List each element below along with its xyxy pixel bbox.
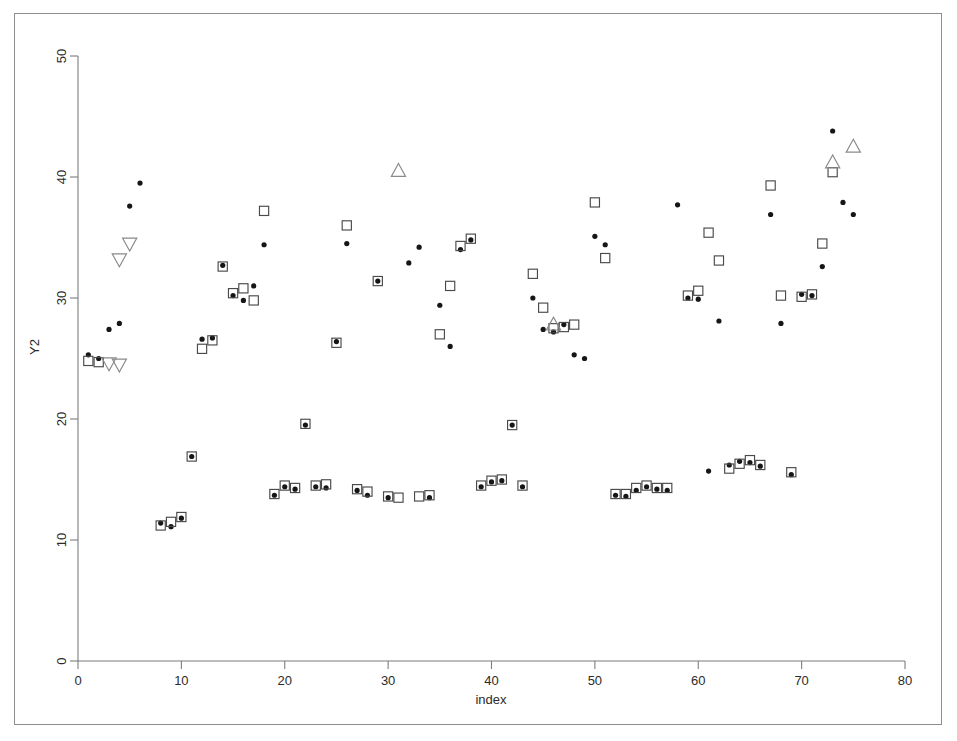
marker-square bbox=[694, 286, 703, 295]
marker-dot bbox=[479, 484, 484, 489]
data-markers bbox=[84, 128, 861, 530]
marker-dot bbox=[489, 479, 494, 484]
x-tick-label: 80 bbox=[898, 673, 912, 688]
marker-dot bbox=[127, 203, 132, 208]
marker-square bbox=[818, 239, 827, 248]
marker-square bbox=[601, 253, 610, 262]
marker-dot bbox=[840, 200, 845, 205]
x-tick-label: 60 bbox=[691, 673, 705, 688]
marker-square bbox=[342, 221, 351, 230]
chart-page: 01020304050 01020304050607080 Y2 index bbox=[0, 0, 957, 741]
marker-dot bbox=[830, 128, 835, 133]
marker-dot bbox=[468, 237, 473, 242]
marker-dot bbox=[272, 493, 277, 498]
x-tick-group: 01020304050607080 bbox=[74, 661, 912, 688]
x-axis-title: index bbox=[475, 692, 507, 707]
marker-square bbox=[590, 198, 599, 207]
marker-dot bbox=[458, 247, 463, 252]
marker-square bbox=[239, 284, 248, 293]
figure-frame: 01020304050 01020304050607080 Y2 index bbox=[14, 13, 942, 725]
marker-dot bbox=[809, 293, 814, 298]
marker-dot bbox=[365, 493, 370, 498]
y-axis-title: Y2 bbox=[27, 339, 42, 355]
x-tick-label: 50 bbox=[588, 673, 602, 688]
scatter-plot: 01020304050 01020304050607080 Y2 index bbox=[15, 14, 941, 724]
marker-dot bbox=[603, 242, 608, 247]
marker-dot bbox=[220, 263, 225, 268]
marker-dot bbox=[117, 321, 122, 326]
y-tick-label: 20 bbox=[54, 412, 69, 426]
marker-dot bbox=[437, 303, 442, 308]
marker-dot bbox=[334, 339, 339, 344]
marker-dot bbox=[644, 484, 649, 489]
marker-square bbox=[704, 228, 713, 237]
marker-dot bbox=[386, 495, 391, 500]
y-tick-label: 10 bbox=[54, 533, 69, 547]
marker-dot bbox=[417, 245, 422, 250]
y-tick-label: 50 bbox=[54, 49, 69, 63]
marker-dot bbox=[582, 356, 587, 361]
marker-dot bbox=[282, 484, 287, 489]
marker-dot bbox=[530, 295, 535, 300]
x-tick-label: 70 bbox=[794, 673, 808, 688]
marker-square bbox=[539, 303, 548, 312]
marker-square bbox=[570, 320, 579, 329]
marker-dot bbox=[675, 202, 680, 207]
marker-dot bbox=[758, 464, 763, 469]
x-tick-label: 0 bbox=[74, 673, 81, 688]
marker-dot bbox=[241, 298, 246, 303]
marker-dot bbox=[706, 468, 711, 473]
marker-square bbox=[249, 296, 258, 305]
marker-dot bbox=[541, 327, 546, 332]
marker-dot bbox=[696, 297, 701, 302]
marker-square bbox=[84, 356, 93, 365]
marker-square bbox=[714, 256, 723, 265]
marker-square bbox=[394, 493, 403, 502]
marker-square bbox=[766, 181, 775, 190]
marker-dot bbox=[106, 327, 111, 332]
marker-dot bbox=[406, 260, 411, 265]
marker-square bbox=[828, 168, 837, 177]
marker-dot bbox=[613, 493, 618, 498]
marker-dot bbox=[778, 321, 783, 326]
marker-triangle-down bbox=[112, 254, 126, 267]
marker-dot bbox=[851, 212, 856, 217]
marker-triangle-up bbox=[391, 163, 405, 176]
marker-dot bbox=[716, 318, 721, 323]
marker-square bbox=[528, 269, 537, 278]
marker-dot bbox=[499, 478, 504, 483]
marker-square bbox=[259, 206, 268, 215]
marker-dot bbox=[572, 352, 577, 357]
x-tick-label: 30 bbox=[381, 673, 395, 688]
marker-dot bbox=[520, 484, 525, 489]
marker-dot bbox=[189, 454, 194, 459]
marker-dot bbox=[355, 488, 360, 493]
x-tick-label: 40 bbox=[484, 673, 498, 688]
marker-dot bbox=[727, 462, 732, 467]
marker-dot bbox=[768, 212, 773, 217]
marker-dot bbox=[251, 283, 256, 288]
marker-triangle-up bbox=[846, 139, 860, 152]
marker-square bbox=[776, 291, 785, 300]
marker-dot bbox=[313, 484, 318, 489]
x-tick-label: 20 bbox=[278, 673, 292, 688]
marker-triangle-down bbox=[102, 358, 116, 371]
marker-square bbox=[415, 492, 424, 501]
marker-dot bbox=[137, 180, 142, 185]
marker-dot bbox=[375, 278, 380, 283]
marker-square bbox=[197, 344, 206, 353]
marker-dot bbox=[820, 264, 825, 269]
marker-dot bbox=[199, 337, 204, 342]
marker-dot bbox=[292, 487, 297, 492]
marker-triangle-up bbox=[826, 155, 840, 168]
y-tick-label: 0 bbox=[54, 657, 69, 664]
marker-dot bbox=[344, 241, 349, 246]
marker-square bbox=[446, 281, 455, 290]
y-tick-label: 40 bbox=[54, 170, 69, 184]
marker-dot bbox=[510, 422, 515, 427]
x-tick-label: 10 bbox=[174, 673, 188, 688]
marker-triangle-down bbox=[123, 238, 137, 251]
marker-dot bbox=[179, 516, 184, 521]
marker-dot bbox=[654, 487, 659, 492]
marker-dot bbox=[592, 234, 597, 239]
